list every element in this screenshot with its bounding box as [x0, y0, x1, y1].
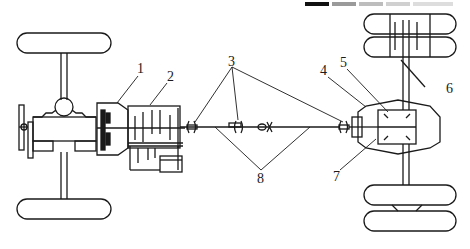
header-bar: [332, 2, 356, 6]
label-3: 3: [228, 55, 235, 69]
engine: [19, 98, 96, 158]
label-7: 7: [333, 170, 340, 184]
header-bar: [305, 2, 329, 6]
header-bar: [386, 2, 410, 6]
clutch: [97, 103, 130, 155]
rear-wheels-top: [364, 14, 456, 87]
leader-lines: [117, 67, 388, 170]
rear-wheels-bottom: [364, 185, 456, 231]
drivetrain-diagram: [0, 0, 470, 249]
propeller-shaft: [180, 121, 349, 133]
label-8: 8: [257, 172, 264, 186]
gearbox: [128, 106, 185, 172]
label-2: 2: [167, 70, 174, 84]
header-bar: [359, 2, 383, 6]
label-6: 6: [446, 82, 453, 96]
label-1: 1: [137, 62, 144, 76]
label-5: 5: [340, 56, 347, 70]
label-4: 4: [320, 64, 327, 78]
header-bar: [413, 2, 453, 6]
